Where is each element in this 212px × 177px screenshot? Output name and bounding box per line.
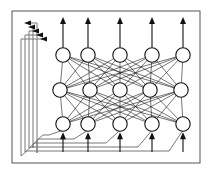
neuron-hidden-layer-3 <box>113 83 127 97</box>
neuron-hidden-layer-4 <box>143 83 157 97</box>
neuron-output-layer-4 <box>145 48 159 62</box>
synapse-line <box>65 96 84 119</box>
neuron-input-layer-1 <box>56 117 70 131</box>
input-arrowhead-icon <box>60 132 66 139</box>
neuron-hidden-layer-2 <box>83 83 97 97</box>
feedback-arrowhead-icon <box>40 36 47 41</box>
neuron-hidden-layer-5 <box>174 83 188 97</box>
feedback-arrowhead-icon <box>28 24 35 29</box>
synapse-line <box>181 97 182 117</box>
synapse-line <box>97 92 176 121</box>
neuron-output-layer-3 <box>113 48 127 62</box>
recurrent-feedback-group <box>21 20 183 156</box>
neuron-output-layer-2 <box>81 48 95 62</box>
feedback-arrowhead-icon <box>24 20 31 25</box>
synapse-line <box>61 62 63 83</box>
output-arrowhead-icon <box>117 17 123 24</box>
neuron-output-layer-1 <box>56 48 70 62</box>
input-arrowhead-icon <box>85 132 91 139</box>
output-arrowhead-icon <box>85 17 91 24</box>
neuron-hidden-layer-1 <box>53 83 67 97</box>
neuron-output-layer-5 <box>176 48 190 62</box>
neuron-input-layer-4 <box>145 117 159 131</box>
neuron-input-layer-5 <box>176 117 190 131</box>
neuron-input-layer-2 <box>81 117 95 131</box>
output-arrowhead-icon <box>60 17 66 24</box>
output-arrowhead-icon <box>180 17 186 24</box>
rnn-diagram-figure <box>0 0 212 177</box>
synapse-line <box>64 61 83 85</box>
network-canvas <box>0 0 212 177</box>
neuron-input-layer-3 <box>113 117 127 131</box>
synapse-line <box>61 97 63 117</box>
feedback-loop-segment <box>37 130 63 153</box>
synapse-line <box>181 62 182 83</box>
output-arrowhead-icon <box>149 17 155 24</box>
input-arrowhead-icon <box>117 132 123 139</box>
synapse-line <box>67 61 85 85</box>
